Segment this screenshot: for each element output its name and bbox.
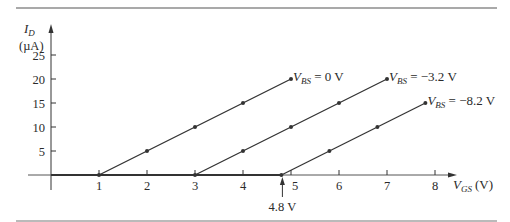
data-point	[375, 125, 379, 129]
series-label: VBS = −8.2 V	[427, 93, 495, 110]
data-point	[327, 149, 331, 153]
data-point	[241, 101, 245, 105]
series-labels: VBS = 0 VVBS = −3.2 VVBS = −8.2 V	[293, 69, 496, 110]
x-tick-label: 6	[336, 179, 342, 193]
x-tick-label: 1	[96, 179, 102, 193]
series-lines	[97, 77, 427, 177]
chart-canvas: 510152025 12345678 VBS = 0 VVBS = −3.2 V…	[0, 0, 510, 222]
x-tick-label: 2	[144, 179, 150, 193]
x-tick-label: 3	[192, 179, 198, 193]
x-tick-label: 7	[384, 179, 390, 193]
data-point	[193, 125, 197, 129]
y-axis-label: ID	[23, 21, 35, 38]
data-point	[337, 101, 341, 105]
series-label: VBS = 0 V	[293, 69, 344, 86]
x-tick-label: 4	[240, 179, 247, 193]
series-line	[281, 103, 425, 175]
arrow-up-icon	[280, 177, 285, 185]
y-axis	[49, 24, 54, 190]
data-point	[193, 173, 197, 177]
annotation-label: 4.8 V	[269, 200, 297, 214]
y-tick-label: 20	[33, 73, 46, 87]
data-point	[289, 125, 293, 129]
x-ticks: 12345678	[96, 170, 438, 193]
x-axis-label: VGS(V)	[453, 177, 493, 194]
series-label: VBS = −3.2 V	[389, 69, 457, 86]
y-axis-arrow-icon	[49, 24, 54, 33]
y-ticks: 510152025	[33, 49, 57, 159]
y-tick-label: 10	[33, 121, 46, 135]
y-tick-label: 15	[33, 97, 46, 111]
data-point	[241, 149, 245, 153]
data-point	[97, 173, 101, 177]
data-point	[145, 149, 149, 153]
x-tick-label: 8	[432, 179, 438, 193]
y-axis-unit: (µA)	[19, 39, 44, 53]
y-tick-label: 5	[39, 145, 45, 159]
x-tick-label: 5	[292, 179, 298, 193]
data-point	[279, 173, 283, 177]
